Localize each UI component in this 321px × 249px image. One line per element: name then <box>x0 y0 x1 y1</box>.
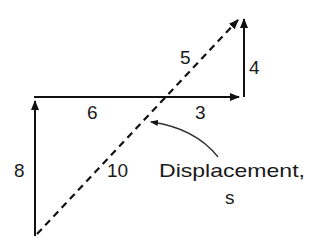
label-six: 6 <box>87 102 98 123</box>
label-five: 5 <box>180 47 191 68</box>
label-eight: 8 <box>14 160 25 181</box>
label-displacement-symbol: s <box>225 187 235 208</box>
displacement-vector-dashed <box>37 20 238 234</box>
label-four: 4 <box>249 57 260 78</box>
label-displacement: Displacement, <box>159 160 305 181</box>
vector-diagram: 8 6 3 4 5 10 Displacement, s <box>0 0 321 249</box>
label-ten: 10 <box>107 160 128 181</box>
pointer-arrow-curve <box>151 122 218 157</box>
label-three: 3 <box>195 102 206 123</box>
